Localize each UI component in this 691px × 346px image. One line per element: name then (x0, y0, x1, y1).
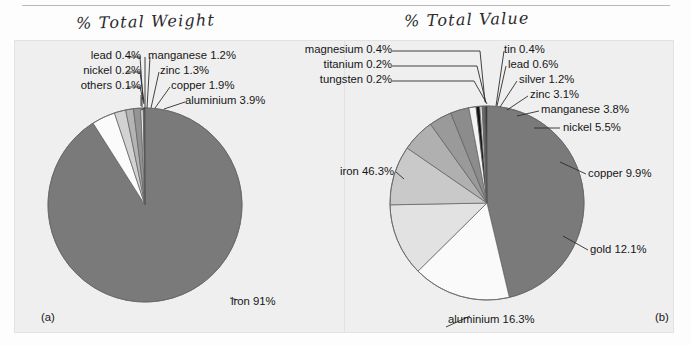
label-others-weight: others 0.1% (35, 79, 141, 92)
label-gold-value: gold 12.1% (590, 243, 647, 256)
label-iron-weight: iron 91% (231, 295, 276, 308)
leader-line-titanium (392, 66, 486, 103)
leader-line-aluminium (164, 102, 185, 109)
label-magnesium-value: magnesium 0.4% (290, 43, 392, 56)
label-tin-value: tin 0.4% (504, 43, 545, 56)
leader-line-zinc (507, 96, 528, 110)
leader-line-magnesium (392, 51, 485, 102)
label-zinc-weight: zinc 1.3% (160, 64, 209, 77)
handwritten-title-value: % Total Value (404, 8, 530, 30)
label-manganese-weight: manganese 1.2% (148, 49, 236, 62)
pie-chart-value (344, 40, 672, 331)
leader-line-silver (500, 81, 517, 107)
leader-line-copper (155, 87, 170, 108)
label-tungsten-value: tungsten 0.2% (290, 73, 392, 86)
label-lead-value: lead 0.6% (508, 58, 558, 71)
label-iron-value: iron 46.3% (316, 165, 394, 178)
label-aluminium-weight: aluminium 3.9% (185, 94, 265, 107)
top-divider-rule (22, 5, 670, 6)
label-nickel-value: nickel 5.5% (563, 121, 621, 134)
label-zinc-value: zinc 3.1% (530, 88, 579, 101)
figure-page: % Total Weight lead 0.4% nickel 0.2% oth… (0, 0, 691, 346)
label-copper-value: copper 9.9% (588, 167, 651, 180)
label-copper-weight: copper 1.9% (171, 79, 234, 92)
panel-tag-b: (b) (655, 311, 669, 323)
label-aluminium-value: aluminium 16.3% (448, 313, 535, 326)
leader-line-manganese (147, 57, 150, 108)
label-lead-weight: lead 0.4% (55, 49, 141, 62)
label-titanium-value: titanium 0.2% (290, 58, 392, 71)
label-silver-value: silver 1.2% (519, 73, 574, 86)
panel-tag-a: (a) (41, 311, 55, 323)
handwritten-title-weight: % Total Weight (76, 10, 215, 32)
label-nickel-weight: nickel 0.2% (35, 64, 141, 77)
label-manganese-value: manganese 3.8% (541, 103, 629, 116)
leader-line-zinc (151, 72, 159, 108)
leader-line-tungsten (392, 81, 487, 104)
